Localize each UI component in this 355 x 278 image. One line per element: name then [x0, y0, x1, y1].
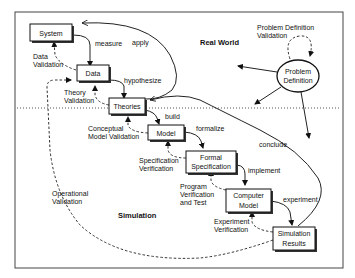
node-simulation-results-label-2: Results	[282, 240, 306, 247]
node-problem-definition-label-1: Problem	[285, 68, 311, 75]
node-theories-label: Theories	[113, 103, 141, 110]
node-computer-model-label-1: Computer	[233, 192, 264, 200]
node-problem-definition-label-2: Definition	[283, 77, 312, 84]
arrow-specification-verification	[168, 141, 186, 158]
label-program-verification-2: Verification	[180, 191, 214, 198]
node-model[interactable]: Model	[148, 125, 186, 142]
arrow-measure	[73, 35, 90, 66]
edge-label-build: build	[165, 113, 180, 120]
label-conceptual-model-validation-1: Conceptual	[88, 125, 124, 133]
arrow-problem-to-theories	[255, 87, 281, 104]
arrow-formalize	[184, 132, 203, 148]
arrow-experiment	[271, 201, 292, 225]
validation-process-diagram: Real World Simulation System Data Theori…	[0, 0, 355, 278]
edge-label-implement: implement	[248, 167, 280, 175]
region-label-simulation: Simulation	[118, 211, 157, 220]
arrow-apply	[82, 23, 177, 99]
edge-label-hypothesize: hypothesize	[124, 77, 161, 85]
node-data-label: Data	[86, 70, 101, 77]
label-data-validation-2: Validation	[33, 61, 63, 68]
node-system[interactable]: System	[30, 24, 74, 43]
edge-label-apply: apply	[132, 39, 149, 47]
edge-label-experiment: experiment	[283, 196, 318, 204]
arrow-implement	[237, 165, 245, 185]
label-data-validation-1: Data	[33, 53, 48, 60]
arrow-build	[145, 110, 159, 124]
arrow-problem-definition-validation	[288, 36, 311, 59]
node-formal-specification-label-2: Specification	[191, 163, 231, 171]
label-specification-verification-1: Specification	[139, 157, 179, 165]
node-data[interactable]: Data	[77, 65, 111, 83]
node-simulation-results[interactable]: Simulation Results	[273, 227, 317, 252]
node-computer-model[interactable]: Computer Model	[226, 189, 273, 214]
label-theory-validation-1: Theory	[64, 89, 86, 97]
label-program-verification-3: and Test	[180, 199, 206, 206]
label-operational-validation-1: Operational	[52, 190, 89, 198]
node-computer-model-label-2: Model	[239, 202, 259, 209]
edge-label-conclude: conclude	[259, 141, 287, 148]
label-experiment-verification-1: Experiment	[214, 218, 249, 226]
arrow-experiment-verification	[252, 212, 273, 232]
label-problem-definition-validation-1: Problem Definition	[257, 24, 314, 31]
arrow-problem-to-simulation	[301, 92, 309, 138]
node-theories[interactable]: Theories	[109, 98, 147, 116]
label-theory-validation-2: Validation	[64, 97, 94, 104]
edge-label-measure: measure	[95, 40, 122, 47]
edge-label-formalize: formalize	[196, 125, 225, 132]
label-operational-validation-2: Validation	[52, 198, 82, 205]
node-formal-specification-label-1: Formal	[200, 154, 222, 161]
node-formal-specification[interactable]: Formal Specification	[186, 151, 238, 175]
arrow-theory-validation	[95, 86, 109, 105]
node-system-label: System	[39, 30, 63, 38]
node-model-label: Model	[156, 130, 176, 137]
region-label-real-world: Real World	[200, 38, 239, 47]
label-experiment-verification-2: Verification	[214, 226, 248, 233]
arrow-problem-to-real-world	[238, 66, 277, 72]
arrow-hypothesize	[109, 80, 124, 98]
label-program-verification-1: Program	[180, 183, 207, 191]
label-problem-definition-validation-2: Validation	[257, 32, 287, 39]
node-simulation-results-label-1: Simulation	[278, 230, 311, 237]
node-problem-definition[interactable]: Problem Definition	[277, 60, 319, 92]
arrow-conceptual-model-validation	[128, 117, 148, 133]
label-specification-verification-2: Verification	[139, 165, 173, 172]
label-conceptual-model-validation-2: Model Validation	[88, 133, 139, 140]
